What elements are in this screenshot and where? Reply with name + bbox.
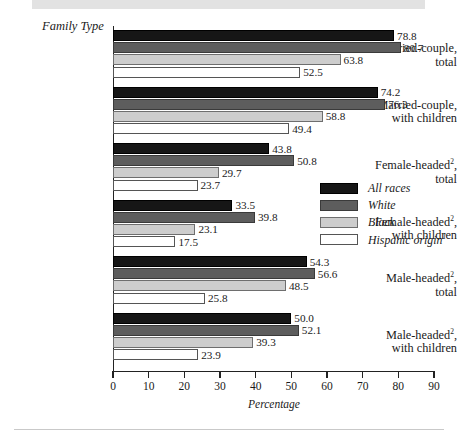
bar: [113, 268, 315, 279]
family-type-heading: Family Type: [42, 19, 104, 34]
bar: [113, 99, 385, 110]
bar-value-label: 29.7: [222, 168, 242, 179]
bar: [113, 236, 175, 247]
bar-value-label: 33.5: [235, 200, 255, 211]
x-tick-10: [148, 371, 149, 378]
legend-swatch: [320, 234, 358, 245]
x-tick-80: [398, 371, 399, 378]
x-tick-label-80: 80: [383, 380, 413, 392]
x-tick-0: [112, 371, 113, 378]
bar: [113, 155, 294, 166]
legend-swatch: [320, 217, 358, 228]
bar-value-label: 80.7: [404, 43, 424, 54]
bar-value-label: 63.8: [344, 55, 364, 66]
x-axis-line: [113, 371, 435, 372]
bar: [113, 67, 300, 78]
legend-label: Hispanic origin1: [368, 232, 446, 248]
bar-value-label: 23.9: [201, 350, 221, 361]
bar-value-label: 52.1: [302, 325, 322, 336]
bar-value-label: 74.2: [381, 87, 401, 98]
bar-value-label: 39.3: [256, 337, 276, 348]
bar-value-label: 50.8: [297, 156, 317, 167]
x-tick-label-70: 70: [348, 380, 378, 392]
bar: [113, 87, 378, 98]
bar-value-label: 58.8: [326, 111, 346, 122]
bar: [113, 256, 307, 267]
bar: [113, 123, 289, 134]
bar: [113, 200, 232, 211]
bar: [113, 143, 269, 154]
bar-value-label: 39.8: [258, 212, 278, 223]
x-tick-label-40: 40: [241, 380, 271, 392]
x-tick-label-50: 50: [276, 380, 306, 392]
footer-rule: [14, 429, 444, 430]
bar: [113, 337, 253, 348]
x-tick-40: [255, 371, 256, 378]
bar: [113, 325, 299, 336]
bar-value-label: 25.8: [208, 293, 228, 304]
bar: [113, 224, 195, 235]
bar: [113, 212, 255, 223]
header-band: [32, 0, 425, 9]
bar: [113, 293, 205, 304]
x-axis-title: Percentage: [113, 398, 435, 410]
bar-value-label: 43.8: [272, 144, 292, 155]
x-tick-label-0: 0: [98, 380, 128, 392]
bar-value-label: 17.5: [178, 237, 198, 248]
bar-value-label: 54.3: [310, 257, 330, 268]
bar-value-label: 23.7: [201, 180, 221, 191]
bar-value-label: 56.6: [318, 269, 338, 280]
bar-value-label: 78.8: [397, 31, 417, 42]
x-tick-70: [362, 371, 363, 378]
x-tick-60: [326, 371, 327, 378]
legend-label: All races: [368, 181, 410, 196]
bar: [113, 167, 219, 178]
bar: [113, 180, 198, 191]
bar-value-label: 52.5: [303, 67, 323, 78]
category-label: Male-headed2,with children: [349, 325, 457, 356]
bar-value-label: 49.4: [292, 124, 312, 135]
legend-label: White: [368, 198, 396, 213]
bar-value-label: 76.3: [388, 99, 408, 110]
x-tick-30: [219, 371, 220, 378]
bar: [113, 313, 291, 324]
bar: [113, 111, 323, 122]
x-tick-50: [291, 371, 292, 378]
x-tick-label-60: 60: [312, 380, 342, 392]
bar: [113, 54, 341, 65]
bar-value-label: 23.1: [198, 224, 218, 235]
bar-value-label: 50.0: [294, 313, 314, 324]
bar: [113, 42, 401, 53]
x-tick-label-10: 10: [134, 380, 164, 392]
bar-value-label: 48.5: [289, 281, 309, 292]
legend-label: Black: [368, 215, 395, 230]
x-tick-90: [433, 371, 434, 378]
legend-swatch: [320, 183, 358, 194]
x-tick-label-20: 20: [169, 380, 199, 392]
bar: [113, 30, 394, 41]
bar: [113, 280, 286, 291]
chart-figure: Family Type 0102030405060708090 Married-…: [0, 0, 457, 441]
x-tick-label-90: 90: [419, 380, 449, 392]
legend-swatch: [320, 200, 358, 211]
x-tick-20: [184, 371, 185, 378]
x-tick-label-30: 30: [205, 380, 235, 392]
category-label: Male-headed2,total: [349, 268, 457, 299]
bar: [113, 349, 198, 360]
